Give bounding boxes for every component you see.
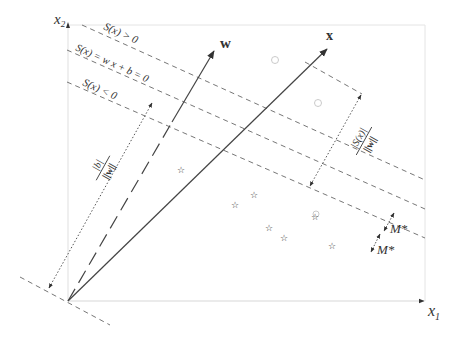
hyperplane-through-x (305, 62, 362, 94)
x2-axis (66, 22, 70, 301)
negative-class-markers: ☆ ☆ ☆ ☆ ☆ ☆ ☆ (177, 165, 336, 251)
star-marker: ☆ (328, 241, 336, 251)
hyperplane-positive (82, 25, 425, 180)
circle-marker (315, 100, 322, 107)
margin-upper-label: M* (389, 221, 408, 236)
star-marker: ☆ (265, 223, 273, 233)
star-marker: ☆ (177, 165, 185, 175)
label-s-negative: S(x) < 0 (81, 76, 120, 103)
positive-class-markers (272, 57, 322, 218)
star-marker: ☆ (280, 233, 288, 243)
bias-distance-arrow (49, 103, 152, 288)
hyperplane-negative (67, 82, 425, 238)
vector-x-label: x (326, 28, 333, 43)
star-marker: ☆ (250, 190, 258, 200)
bias-distance-label: |b| ||w|| (86, 150, 121, 186)
circle-marker (272, 57, 279, 64)
svm-diagram: x1 x2 S(x) > 0 S(x) = w x + b = 0 S(x) <… (0, 0, 459, 341)
x1-axis-label: x1 (427, 302, 440, 322)
hyperplane-zero (67, 50, 425, 209)
star-marker: ☆ (231, 200, 239, 210)
label-s-positive: S(x) > 0 (102, 20, 141, 47)
point-distance-label: |S(x)| ||w|| (346, 121, 383, 161)
margin-lower-label: M* (376, 242, 395, 257)
vector-w-label: w (220, 35, 231, 51)
x2-axis-label: x2 (53, 11, 66, 29)
star-marker: ☆ (311, 212, 319, 222)
